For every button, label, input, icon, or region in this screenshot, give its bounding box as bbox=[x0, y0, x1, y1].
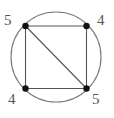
vertex-bottom-right bbox=[83, 85, 89, 91]
vertex-top-left bbox=[22, 23, 28, 29]
vertex-bottom-left bbox=[22, 85, 28, 91]
vertex-top-right bbox=[83, 23, 89, 29]
edge-diagonal bbox=[26, 26, 87, 89]
graph-diagram-figure: 5 4 4 5 bbox=[0, 0, 114, 118]
vertex-label-top-right: 4 bbox=[97, 13, 105, 28]
vertex-label-top-left: 5 bbox=[4, 13, 12, 28]
vertex-label-bottom-left: 4 bbox=[8, 92, 16, 107]
vertex-label-bottom-right: 5 bbox=[92, 92, 100, 107]
